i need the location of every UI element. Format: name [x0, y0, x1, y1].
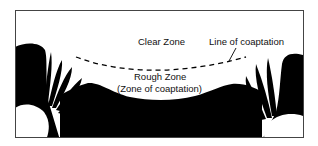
clear-zone-label: Clear Zone — [138, 36, 185, 47]
line-of-coaptation-label: Line of coaptation — [209, 36, 284, 47]
line-of-coaptation-dashed — [76, 57, 246, 70]
label-pointer-line — [229, 48, 236, 61]
zone-of-coaptation-label: (Zone of coaptation) — [117, 83, 202, 94]
rough-zone-label: Rough Zone — [134, 71, 186, 82]
coaptation-diagram: Clear Zone Line of coaptation Rough Zone… — [0, 0, 318, 146]
